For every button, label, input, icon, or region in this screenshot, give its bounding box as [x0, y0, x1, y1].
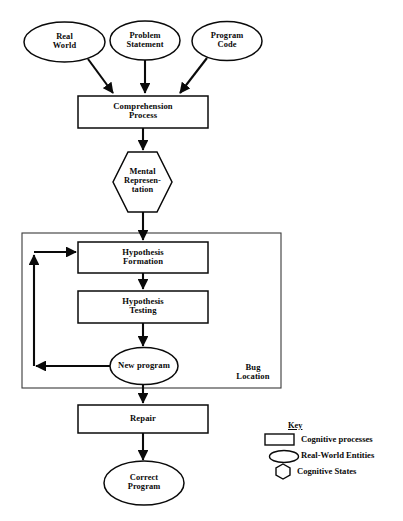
diagram-canvas: Real World Problem Statement Program Cod…	[0, 0, 403, 521]
node-new-program-shape[interactable]	[110, 348, 178, 385]
node-repair-shape[interactable]	[78, 405, 208, 433]
legend-item-cognitive-processes: Cognitive processes	[301, 434, 373, 444]
legend-hexagon-icon	[276, 464, 290, 479]
edge-real-world-to-comprehension	[88, 59, 113, 93]
node-correct-program-shape[interactable]	[104, 461, 184, 505]
edge-program-code-to-comprehension	[180, 58, 207, 93]
legend-ellipse-icon	[270, 451, 299, 463]
node-hypothesis-formation-shape[interactable]	[78, 242, 208, 273]
legend-item-real-world-entities: Real-World Entities	[301, 450, 374, 460]
node-real-world-shape[interactable]	[24, 22, 105, 62]
legend-title: Key	[288, 421, 302, 430]
node-comprehension-process-shape[interactable]	[78, 96, 208, 128]
node-mental-representation-shape[interactable]	[113, 152, 172, 212]
node-problem-statement-shape[interactable]	[110, 21, 180, 60]
node-program-code-shape[interactable]	[192, 22, 262, 61]
legend-item-cognitive-states: Cognitive States	[297, 466, 356, 476]
legend-rectangle-icon	[265, 434, 294, 445]
node-hypothesis-testing-shape[interactable]	[78, 291, 208, 323]
